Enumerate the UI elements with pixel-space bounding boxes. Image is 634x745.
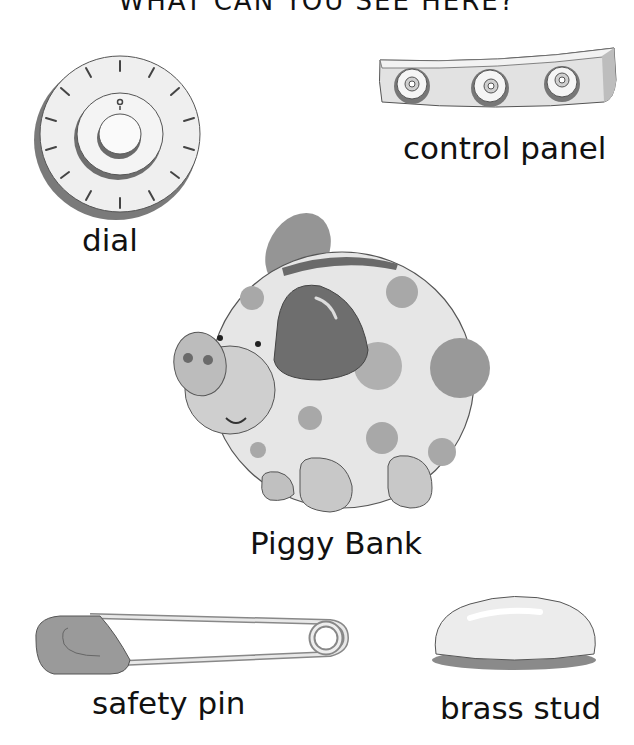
knob-icon [471,69,509,107]
brass-stud-label: brass stud [440,690,601,726]
dial-illustration [30,48,210,228]
piggy-bank-label: Piggy Bank [250,525,422,561]
knob-icon [394,68,430,104]
control-panel-illustration [378,42,618,122]
knob-icon [544,66,580,102]
piggy-bank-illustration [170,230,490,520]
dial-label: dial [82,222,138,258]
brass-stud-illustration [430,596,600,676]
page-title: WHAT CAN YOU SEE HERE? [0,0,634,16]
control-panel-label: control panel [403,130,606,166]
safety-pin-label: safety pin [92,685,245,721]
safety-pin-illustration [30,610,360,680]
